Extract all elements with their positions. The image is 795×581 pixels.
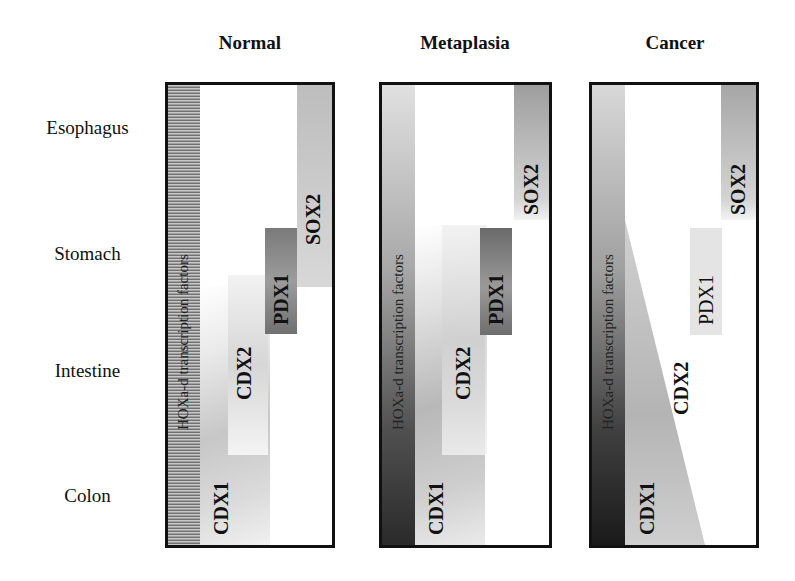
- hox-label: HOXa-d transcription factors: [175, 254, 192, 430]
- row-label-stomach: Stomach: [20, 243, 155, 265]
- sox2-label: SOX2: [302, 194, 325, 245]
- cdx1-label: CDX1: [636, 482, 659, 535]
- column-title-metaplasia: Metaplasia: [380, 32, 550, 54]
- sox2-label: SOX2: [520, 164, 543, 215]
- panel-metaplasia: HOXa-d transcription factors CDX1 CDX2 P…: [379, 82, 552, 548]
- sox2-band: [297, 85, 333, 287]
- hox-label: HOXa-d transcription factors: [390, 254, 407, 430]
- row-label-esophagus: Esophagus: [20, 117, 155, 139]
- hox-label: HOXa-d transcription factors: [600, 254, 617, 430]
- cdx2-label: CDX2: [452, 347, 475, 400]
- sox2-label: SOX2: [727, 164, 750, 215]
- cdx1-label: CDX1: [210, 482, 233, 535]
- pdx1-label: PDX1: [270, 274, 293, 325]
- row-label-colon: Colon: [20, 485, 155, 507]
- pdx1-label: PDX1: [695, 275, 718, 325]
- panel-cancer: HOXa-d transcription factors CDX1 CDX2 P…: [589, 82, 759, 548]
- pdx1-label: PDX1: [485, 274, 508, 325]
- panel-normal: HOXa-d transcription factors CDX1 CDX2 P…: [165, 82, 335, 548]
- cdx2-label: CDX2: [233, 347, 256, 400]
- column-title-cancer: Cancer: [590, 32, 760, 54]
- cdx2-label: CDX2: [670, 362, 693, 415]
- cdx1-label: CDX1: [425, 482, 448, 535]
- column-title-normal: Normal: [165, 32, 335, 54]
- row-label-intestine: Intestine: [20, 360, 155, 382]
